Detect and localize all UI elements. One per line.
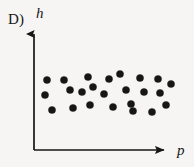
scatter-point: [109, 103, 116, 110]
scatter-point: [156, 89, 163, 96]
scatter-point: [78, 88, 85, 95]
scatter-point: [69, 104, 76, 111]
scatter-point: [66, 86, 73, 93]
scatter-point: [89, 83, 96, 90]
scatter-point: [116, 70, 123, 77]
scatter-point: [154, 75, 161, 82]
scatter-point: [167, 80, 174, 87]
scatter-point: [129, 107, 136, 114]
scatter-point: [140, 88, 147, 95]
scatter-point: [60, 76, 67, 83]
scatter-point: [86, 101, 93, 108]
scatter-plot-figure: D) h p: [0, 0, 194, 167]
scatter-point: [41, 91, 48, 98]
scatter-point: [48, 106, 55, 113]
scatter-point: [127, 100, 134, 107]
scatter-point: [122, 86, 129, 93]
scatter-points-group: [41, 70, 174, 115]
scatter-point: [136, 74, 143, 81]
scatter-point: [43, 76, 50, 83]
scatter-point: [162, 101, 169, 108]
scatter-point: [105, 75, 112, 82]
scatter-point: [84, 73, 91, 80]
scatter-point: [148, 108, 155, 115]
plot-area: [0, 0, 194, 167]
scatter-point: [100, 90, 107, 97]
